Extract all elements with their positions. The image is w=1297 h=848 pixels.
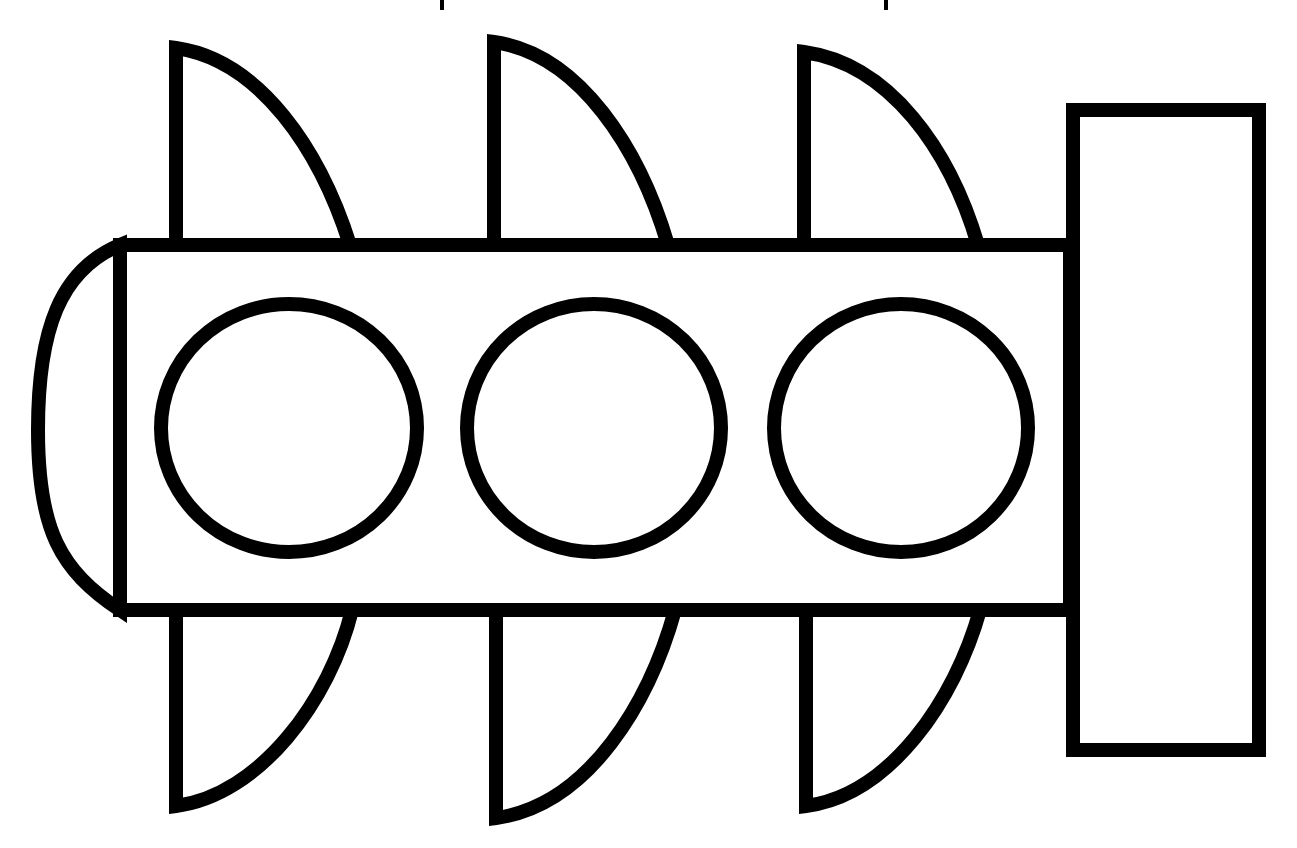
circle-port-1 <box>161 304 417 552</box>
circle-port-2 <box>467 304 721 552</box>
bottom-fins <box>176 610 980 818</box>
circle-port-3 <box>774 304 1028 552</box>
top-fin-1 <box>176 48 350 245</box>
bottom-fin-2 <box>496 610 675 818</box>
left-cap <box>38 245 120 610</box>
circular-ports <box>161 304 1028 552</box>
top-fin-3 <box>804 52 978 245</box>
diagram-canvas <box>0 0 1297 848</box>
right-block <box>1073 110 1259 750</box>
top-fins <box>176 42 978 245</box>
top-fin-2 <box>494 42 668 245</box>
bottom-fin-3 <box>806 610 980 806</box>
bottom-fin-1 <box>176 610 352 806</box>
